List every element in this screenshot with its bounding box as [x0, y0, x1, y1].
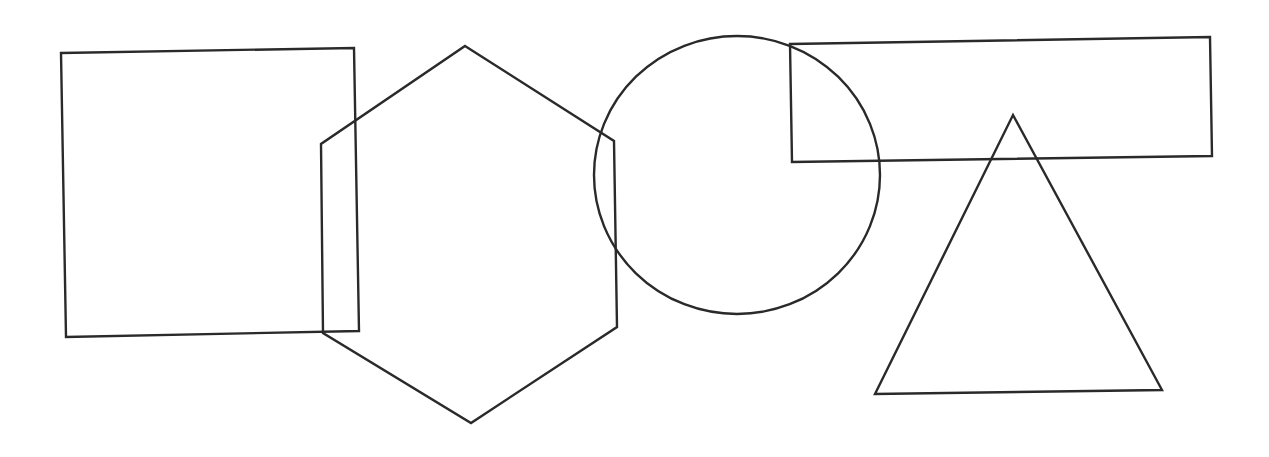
- square-shape: [61, 48, 359, 337]
- hexagon-shape: [321, 46, 617, 423]
- rectangle-shape: [790, 37, 1212, 162]
- shapes-canvas: [0, 0, 1269, 457]
- circle-shape: [594, 36, 880, 314]
